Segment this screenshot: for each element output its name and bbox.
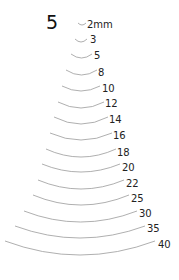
sweep-arc — [46, 149, 116, 157]
sweep-arc — [5, 241, 155, 255]
sweep-arc — [42, 164, 120, 172]
width-label: 30 — [139, 209, 152, 219]
sweep-arc — [54, 117, 108, 124]
width-label: 22 — [126, 179, 139, 189]
sweep-arc — [38, 180, 124, 189]
width-label: 3 — [90, 35, 96, 45]
width-label: 40 — [158, 240, 171, 250]
sweep-arc — [71, 54, 92, 58]
sweep-arc — [33, 195, 129, 205]
sweep-arc — [66, 70, 97, 75]
width-label: 20 — [122, 163, 135, 173]
sweep-arc — [15, 226, 145, 238]
gouge-sweep-diagram: 5 2mm3581012141618202225303540 — [0, 0, 179, 280]
width-label: 2mm — [87, 20, 113, 30]
width-label: 10 — [102, 84, 115, 94]
width-label: 5 — [94, 51, 100, 61]
sweep-arc — [58, 102, 104, 108]
width-label: 16 — [113, 131, 126, 141]
sweep-arc — [78, 23, 86, 25]
sweep-arc — [75, 39, 87, 42]
sweep-arc — [62, 86, 100, 91]
width-label: 18 — [117, 148, 130, 158]
sweep-arc — [24, 211, 137, 222]
sweep-arc — [50, 133, 112, 140]
width-label: 8 — [98, 68, 104, 78]
width-label: 35 — [147, 224, 160, 234]
width-label: 25 — [131, 194, 144, 204]
width-label: 12 — [105, 99, 118, 109]
width-label: 14 — [109, 115, 122, 125]
